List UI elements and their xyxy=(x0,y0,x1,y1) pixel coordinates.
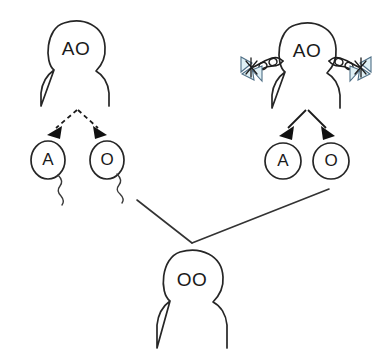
egg-a-label: A xyxy=(277,151,289,170)
father-body-outline xyxy=(41,21,109,106)
father-arrow-left-shaft xyxy=(56,110,77,128)
sperm-cell-a: A xyxy=(31,141,65,205)
sperm-a-tail xyxy=(58,175,63,205)
egg-cell-o: O xyxy=(313,143,349,179)
mother-figure: AO xyxy=(241,23,371,108)
mother-meiosis-arrows xyxy=(279,110,335,140)
father-arrow-left-head xyxy=(47,126,62,139)
mother-arrow-left-shaft xyxy=(288,110,306,128)
connector-from-egg-o xyxy=(192,189,329,243)
father-arrow-right-shaft xyxy=(78,110,98,128)
fertilization-connectors xyxy=(137,189,329,243)
father-genotype-label: AO xyxy=(62,38,90,59)
father-meiosis-arrows xyxy=(47,110,107,139)
child-figure: OO xyxy=(157,250,227,348)
inheritance-diagram: AO A O AO xyxy=(0,0,387,352)
sperm-cell-o: O xyxy=(90,141,124,203)
father-arrow-right-head xyxy=(93,126,107,139)
father-figure: AO xyxy=(41,21,109,106)
mother-arrow-right-head xyxy=(321,126,335,140)
mother-braid-left xyxy=(241,57,283,81)
bow-left xyxy=(241,57,262,81)
egg-o-label: O xyxy=(324,151,337,170)
sperm-a-label: A xyxy=(42,150,54,169)
mother-braid-right xyxy=(329,57,371,81)
bow-right xyxy=(350,57,371,81)
mother-genotype-label: AO xyxy=(293,40,321,61)
connector-from-sperm-o xyxy=(137,200,192,243)
sperm-o-label: O xyxy=(100,150,113,169)
child-body-outline xyxy=(157,250,227,348)
mother-arrow-left-head xyxy=(279,126,294,140)
child-genotype-label: OO xyxy=(177,269,208,290)
diagram-canvas: AO A O AO xyxy=(0,0,387,352)
mother-body-outline xyxy=(272,23,340,108)
mother-arrow-right-shaft xyxy=(308,110,326,128)
sperm-o-tail xyxy=(117,174,123,203)
egg-cell-a: A xyxy=(265,143,301,179)
